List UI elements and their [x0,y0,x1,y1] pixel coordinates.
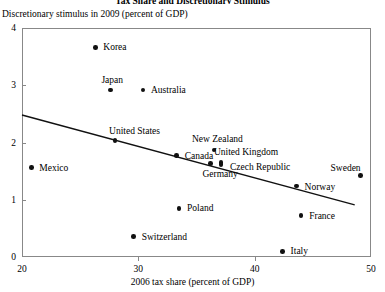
data-point [280,249,285,254]
data-point-label: Mexico [39,163,68,173]
data-point-label: Sweden [331,163,361,173]
data-point [208,161,213,166]
data-point [358,173,363,178]
x-tick-label: 40 [244,264,266,274]
y-tick-mark [22,85,26,86]
data-point-label: France [309,211,335,221]
y-tick-label: 3 [2,80,16,90]
data-point [29,165,34,170]
data-point-label: Australia [151,85,186,95]
data-point [294,184,299,189]
x-tick-mark [138,257,139,261]
data-point-label: United States [109,126,160,136]
y-tick-label: 4 [2,23,16,33]
data-point [174,153,179,158]
data-point-label: Czech Republic [230,162,290,172]
data-point-label: Korea [103,42,126,52]
x-tick-label: 30 [127,264,149,274]
y-tick-mark [22,200,26,201]
data-point [93,45,98,50]
x-tick-label: 20 [11,264,33,274]
data-point-label: United Kingdom [214,147,278,157]
data-point-label: Italy [291,246,308,256]
data-point-label: Switzerland [142,232,187,242]
y-tick-mark [22,143,26,144]
y-tick-label: 2 [2,138,16,148]
data-point-label: Norway [305,182,336,192]
data-point-label: New Zealand [192,134,243,144]
x-axis-label: 2006 tax share (percent of GDP) [0,277,385,287]
data-point [131,234,136,239]
data-point [299,213,304,218]
y-tick-label: 0 [2,252,16,262]
data-point-label: Canada [185,151,214,161]
data-point-label: Japan [101,75,123,85]
y-tick-label: 1 [2,195,16,205]
data-point [177,206,182,211]
data-point-label: Poland [187,203,213,213]
chart-title: Tax Share and Discretionary Stimulus [0,0,385,4]
x-tick-mark [255,257,256,261]
y-axis-label: Discretionary stimulus in 2009 (percent … [2,9,188,19]
chart-page: Tax Share and Discretionary Stimulus Dis… [0,0,385,292]
data-point [219,162,224,167]
x-tick-label: 50 [360,264,382,274]
data-point [108,88,113,93]
